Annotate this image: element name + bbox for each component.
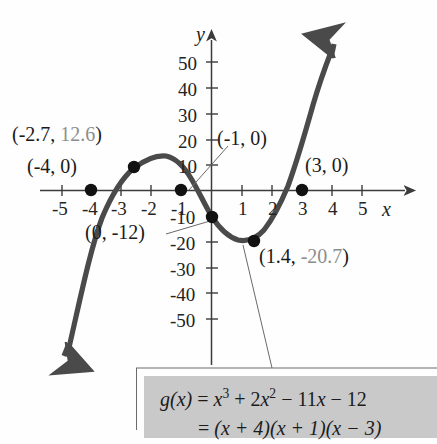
formula-arg: (x) <box>170 388 192 410</box>
y-tick-30: 30 <box>178 106 197 125</box>
y-tick-50: 50 <box>178 54 197 73</box>
formula-box: g(x) = x3 + 2x2 − 11x − 12 = (x + 4)(x +… <box>144 376 437 438</box>
annotation-local-min-main: (1.4, <box>259 245 301 267</box>
y-tick-neg50: -50 <box>170 311 195 330</box>
x-tick-1: 1 <box>238 199 248 218</box>
formula-eq2: = <box>198 417 214 439</box>
x-tick-2: 2 <box>268 199 278 218</box>
formula-line-factored: = (x + 4)(x + 1)(x − 3) <box>160 414 423 443</box>
formula-g: g <box>160 388 170 410</box>
cubic-curve <box>64 44 334 356</box>
point-local-max <box>128 161 140 173</box>
x-tick-neg1: -1 <box>171 199 187 218</box>
point-root-neg1 <box>175 184 187 196</box>
annotation-local-max-value: 12.6 <box>60 123 95 145</box>
x-tick-neg3: -3 <box>111 199 127 218</box>
formula-eq: = <box>192 388 213 410</box>
annotation-root-neg4: (-4, 0) <box>27 156 77 176</box>
y-axis <box>206 40 218 365</box>
annotation-local-min: (1.4, -20.7) <box>259 246 349 266</box>
point-y-intercept <box>206 211 218 223</box>
y-tick-neg40: -40 <box>170 285 195 304</box>
y-tick-40: 40 <box>178 80 197 99</box>
formula-line-expanded: g(x) = x3 + 2x2 − 11x − 12 <box>160 385 423 414</box>
x-tick-3: 3 <box>298 199 308 218</box>
formula-term-x2-base: x <box>260 388 269 410</box>
annotation-local-min-tail: ) <box>342 245 349 267</box>
point-root-3 <box>296 184 308 196</box>
formula-minus-12: − 12 <box>326 388 367 410</box>
leader-lines <box>166 146 272 368</box>
formula-minus-11: − 11 <box>276 388 317 410</box>
annotation-local-max-tail: ) <box>95 123 102 145</box>
formula-plus-2: + 2 <box>229 388 260 410</box>
y-tick-neg20: -20 <box>170 234 195 253</box>
annotation-root-neg1: (-1, 0) <box>217 128 267 148</box>
point-root-neg4 <box>85 184 97 196</box>
formula-factored-body: (x + 4)(x + 1)(x − 3) <box>214 417 381 439</box>
y-axis-label: y <box>196 24 205 44</box>
y-tick-20: 20 <box>178 132 197 151</box>
annotation-local-min-value: -20.7 <box>301 245 343 267</box>
x-tick-5: 5 <box>358 199 368 218</box>
x-tick-neg4: -4 <box>82 199 98 218</box>
x-tick-neg5: -5 <box>52 199 68 218</box>
formula-term-x-base: x <box>317 388 326 410</box>
annotation-root-3: (3, 0) <box>305 155 348 175</box>
annotation-local-max: (-2.7, 12.6) <box>12 124 102 144</box>
y-tick-10: 10 <box>178 157 197 176</box>
x-tick-4: 4 <box>328 199 338 218</box>
cubic-graph-figure: y x 50 40 30 20 10 -10 -20 -30 -40 -50 -… <box>0 0 437 444</box>
y-tick-neg30: -30 <box>170 260 195 279</box>
annotation-y-intercept: (0, -12) <box>85 222 145 242</box>
x-tick-neg2: -2 <box>141 199 157 218</box>
x-axis-label: x <box>382 199 391 219</box>
annotation-local-max-main: (-2.7, <box>12 123 60 145</box>
